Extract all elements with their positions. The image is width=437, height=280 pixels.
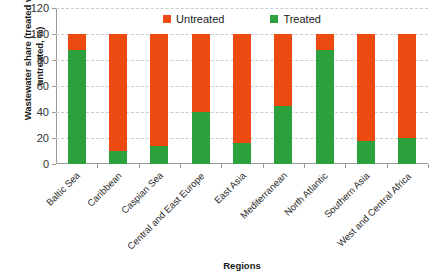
y-tick-label: 0 bbox=[43, 158, 49, 170]
stacked-bar[interactable] bbox=[150, 34, 168, 164]
stacked-bar[interactable] bbox=[109, 34, 127, 164]
stacked-bar[interactable] bbox=[316, 34, 334, 164]
bar-segment-treated[interactable] bbox=[233, 143, 251, 164]
plot-area: 020406080100120 bbox=[56, 8, 428, 164]
bar-segment-treated[interactable] bbox=[192, 112, 210, 164]
bar-segment-untreated[interactable] bbox=[192, 34, 210, 112]
bar-segment-treated[interactable] bbox=[274, 106, 292, 165]
legend-label: Treated bbox=[283, 13, 321, 25]
y-tick-label: 100 bbox=[31, 28, 49, 40]
legend-item[interactable]: Untreated bbox=[163, 13, 224, 25]
legend-label: Untreated bbox=[176, 13, 224, 25]
x-axis-tick-label: Caribbean bbox=[85, 170, 124, 209]
bar-slot bbox=[56, 8, 97, 164]
bar-slot bbox=[97, 8, 138, 164]
bar-slot bbox=[139, 8, 180, 164]
bar-segment-untreated[interactable] bbox=[109, 34, 127, 151]
bar-segment-treated[interactable] bbox=[357, 141, 375, 164]
x-axis-tick-label: West and Central Africa bbox=[335, 170, 413, 248]
y-tick-label: 20 bbox=[37, 132, 49, 144]
bar-segment-treated[interactable] bbox=[398, 138, 416, 164]
y-tick-mark bbox=[52, 164, 56, 165]
y-tick-label: 120 bbox=[31, 2, 49, 14]
bar-slot bbox=[221, 8, 262, 164]
x-axis-tick-label: East Asia bbox=[212, 170, 248, 206]
bar-segment-treated[interactable] bbox=[316, 50, 334, 164]
legend-item[interactable]: Treated bbox=[270, 13, 321, 25]
stacked-bar[interactable] bbox=[68, 34, 86, 164]
y-tick-label: 60 bbox=[37, 80, 49, 92]
bar-segment-untreated[interactable] bbox=[233, 34, 251, 143]
wastewater-share-chart: Wastewater share (treated vs untreated, … bbox=[0, 0, 437, 280]
bar-slot bbox=[345, 8, 386, 164]
bar-segment-untreated[interactable] bbox=[357, 34, 375, 141]
bars-layer bbox=[56, 8, 428, 164]
stacked-bar[interactable] bbox=[274, 34, 292, 164]
square-swatch-icon bbox=[163, 15, 171, 23]
x-axis-tick-label: Baltic Sea bbox=[44, 170, 82, 208]
stacked-bar[interactable] bbox=[233, 34, 251, 164]
x-axis-title: Regions bbox=[56, 260, 428, 271]
bar-segment-untreated[interactable] bbox=[398, 34, 416, 138]
stacked-bar[interactable] bbox=[192, 34, 210, 164]
bar-segment-untreated[interactable] bbox=[150, 34, 168, 146]
stacked-bar[interactable] bbox=[357, 34, 375, 164]
bar-segment-untreated[interactable] bbox=[68, 34, 86, 50]
y-tick-label: 40 bbox=[37, 106, 49, 118]
bar-slot bbox=[304, 8, 345, 164]
stacked-bar[interactable] bbox=[398, 34, 416, 164]
bar-slot bbox=[180, 8, 221, 164]
bar-segment-untreated[interactable] bbox=[274, 34, 292, 106]
y-tick-label: 80 bbox=[37, 54, 49, 66]
x-axis-tick-label: Central and East Europe bbox=[125, 170, 206, 251]
bar-segment-treated[interactable] bbox=[68, 50, 86, 164]
bar-segment-treated[interactable] bbox=[150, 146, 168, 164]
bar-segment-untreated[interactable] bbox=[316, 34, 334, 50]
x-tick-mark bbox=[428, 164, 429, 168]
x-axis-labels: Baltic SeaCaribbeanCaspian SeaCentral an… bbox=[56, 166, 428, 254]
bar-segment-treated[interactable] bbox=[109, 151, 127, 164]
bar-slot bbox=[263, 8, 304, 164]
square-swatch-icon bbox=[270, 15, 278, 23]
bar-slot bbox=[387, 8, 428, 164]
